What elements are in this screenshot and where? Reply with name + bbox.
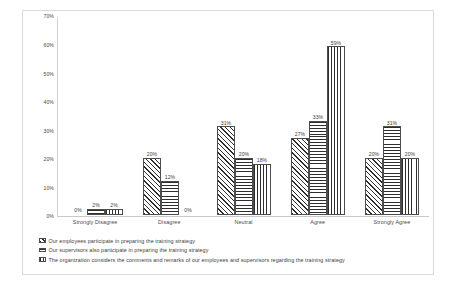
legend-item[interactable]: Our employees participate in preparing t… [39, 236, 417, 245]
bar[interactable]: 59% [327, 46, 345, 215]
bar-value-label: 20% [239, 152, 250, 157]
legend-item[interactable]: Our supervisors also participate in prep… [39, 246, 417, 255]
bar[interactable]: 31% [217, 126, 235, 215]
bar-groups: 0%2%2%20%12%0%31%20%18%27%33%59%20%31%20… [59, 17, 429, 215]
bar-value-label: 33% [313, 115, 324, 120]
chart-container: 0%10%20%30%40%50%60%70% 0%2%2%20%12%0%31… [22, 10, 434, 275]
bar-value-label: 12% [165, 175, 176, 180]
bar-slot: 33% [309, 17, 327, 215]
bar[interactable]: 12% [161, 181, 179, 215]
y-axis-tick: 40% [44, 100, 55, 105]
bar[interactable]: 2% [105, 209, 123, 215]
bar[interactable]: 27% [291, 138, 309, 215]
bar-slot: 59% [327, 17, 345, 215]
legend-label: Our supervisors also participate in prep… [49, 247, 209, 253]
bar-slot: 2% [87, 17, 105, 215]
bar-slot: 0% [69, 17, 87, 215]
y-axis: 0%10%20%30%40%50%60%70% [23, 11, 57, 223]
legend-swatch-icon [39, 238, 46, 243]
bar-slot: 20% [365, 17, 383, 215]
bar-group: 20%12%0% [133, 17, 207, 215]
x-axis-tick-5: Strongly Agree [355, 219, 429, 226]
bar-value-label: 2% [92, 203, 100, 208]
bar-slot: 2% [105, 17, 123, 215]
y-axis-tick: 0% [46, 214, 54, 219]
legend-swatch-icon [39, 257, 46, 262]
bar[interactable]: 2% [87, 209, 105, 215]
bar-value-label: 59% [331, 41, 342, 46]
legend-label: The organization considers the comments … [49, 257, 345, 263]
bar[interactable]: 20% [365, 158, 383, 215]
bar[interactable]: 20% [235, 158, 253, 215]
bar-value-label: 0% [74, 208, 82, 213]
y-axis-tick: 10% [44, 186, 55, 191]
bar-slot: 27% [291, 17, 309, 215]
legend-label: Our employees participate in preparing t… [49, 238, 196, 244]
bar[interactable]: 20% [143, 158, 161, 215]
bar-slot: 18% [253, 17, 271, 215]
y-axis-tick: 60% [44, 43, 55, 48]
bar[interactable]: 18% [253, 164, 271, 215]
bar-group: 20%31%20% [355, 17, 429, 215]
bar-value-label: 31% [387, 121, 398, 126]
bar-value-label: 20% [369, 152, 380, 157]
bar-group: 31%20%18% [207, 17, 281, 215]
bar-value-label: 31% [221, 121, 232, 126]
bar-value-label: 0% [184, 208, 192, 213]
bar-group: 27%33%59% [281, 17, 355, 215]
bar-slot: 20% [143, 17, 161, 215]
bar-group: 0%2%2% [59, 17, 133, 215]
bar-slot: 0% [179, 17, 197, 215]
bar-value-label: 20% [147, 152, 158, 157]
bar-value-label: 2% [110, 203, 118, 208]
legend: Our employees participate in preparing t… [35, 233, 421, 265]
y-axis-tick: 20% [44, 157, 55, 162]
plot-area: 0%2%2%20%12%0%31%20%18%27%33%59%20%31%20… [57, 17, 429, 217]
legend-swatch-icon [39, 248, 46, 253]
x-axis-tick-1: Strongly Disagree [58, 219, 132, 226]
bar-slot: 31% [383, 17, 401, 215]
bar-slot: 20% [401, 17, 419, 215]
y-axis-tick: 50% [44, 72, 55, 77]
bar[interactable]: 31% [383, 126, 401, 215]
x-axis: Strongly DisagreeDisagreeNeutralAgreeStr… [58, 219, 429, 226]
bar-slot: 31% [217, 17, 235, 215]
x-axis-tick-3: Neutral [206, 219, 280, 226]
y-axis-tick: 70% [44, 14, 55, 19]
bar-value-label: 20% [405, 152, 416, 157]
x-axis-tick-4: Agree [281, 219, 355, 226]
bar-slot: 12% [161, 17, 179, 215]
y-axis-tick: 30% [44, 129, 55, 134]
bar-value-label: 27% [295, 132, 306, 137]
bar-slot: 20% [235, 17, 253, 215]
x-axis-tick-2: Disagree [132, 219, 206, 226]
bar[interactable]: 33% [309, 121, 327, 215]
bar[interactable]: 20% [401, 158, 419, 215]
plot-wrapper: 0%10%20%30%40%50%60%70% 0%2%2%20%12%0%31… [23, 11, 435, 223]
bar-value-label: 18% [257, 158, 268, 163]
legend-item[interactable]: The organization considers the comments … [39, 255, 417, 264]
